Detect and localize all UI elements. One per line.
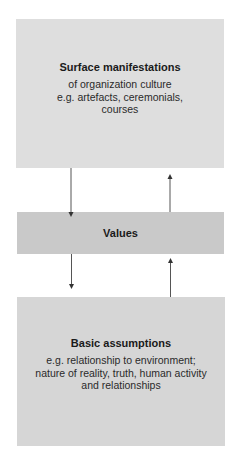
- arrow-up-icon: [168, 174, 173, 212]
- arrow-up-icon: [168, 258, 173, 297]
- arrow-down-icon: [69, 254, 74, 289]
- arrow-down-icon: [69, 168, 74, 217]
- connector-arrows: [0, 0, 238, 467]
